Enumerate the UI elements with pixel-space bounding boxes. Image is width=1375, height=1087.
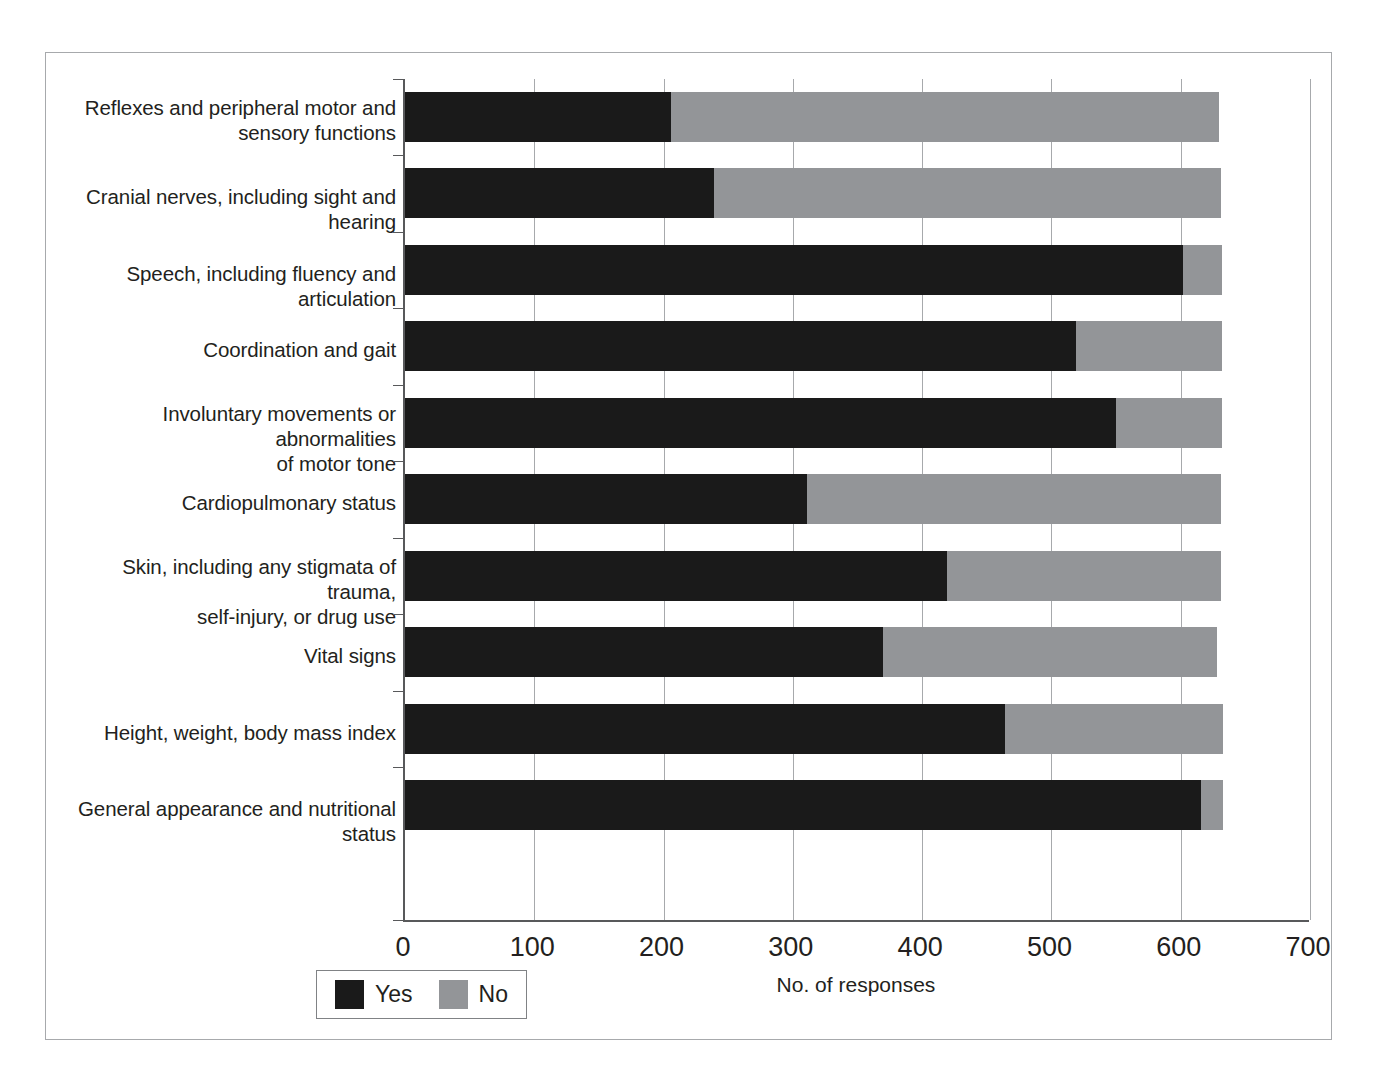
category-label-line: self-injury, or drug use xyxy=(197,605,396,628)
category-label: Height, weight, body mass index xyxy=(51,720,396,745)
category-label-line: Cardiopulmonary status xyxy=(182,491,396,514)
category-label-line: Cranial nerves, including sight and hear… xyxy=(86,185,396,233)
category-label-line: of motor tone xyxy=(277,452,397,475)
category-label: General appearance and nutritional statu… xyxy=(51,796,396,846)
category-label: Cranial nerves, including sight and hear… xyxy=(51,184,396,234)
category-tick xyxy=(393,155,405,156)
legend-label-no: No xyxy=(479,983,508,1006)
legend-label-yes: Yes xyxy=(375,983,413,1006)
stacked-bar[interactable] xyxy=(405,245,1222,295)
stacked-bar[interactable] xyxy=(405,92,1219,142)
stacked-bar[interactable] xyxy=(405,704,1223,754)
no-swatch-icon xyxy=(439,980,468,1009)
category-label-line: Speech, including fluency and articulati… xyxy=(127,262,397,310)
x-tick-label: 100 xyxy=(510,931,555,963)
x-tick-label: 0 xyxy=(395,931,410,963)
category-label-line: Height, weight, body mass index xyxy=(104,721,396,744)
bar-segment-no[interactable] xyxy=(883,627,1217,677)
bar-row xyxy=(405,232,1310,308)
stacked-bar[interactable] xyxy=(405,474,1221,524)
x-tick-label: 500 xyxy=(1027,931,1072,963)
bar-segment-no[interactable] xyxy=(1183,245,1222,295)
category-tick xyxy=(393,385,405,386)
gridline xyxy=(1310,79,1311,920)
bar-segment-yes[interactable] xyxy=(405,245,1183,295)
bar-segment-yes[interactable] xyxy=(405,398,1116,448)
bar-row xyxy=(405,614,1310,690)
category-label-line: Coordination and gait xyxy=(203,338,396,361)
plot-area xyxy=(403,79,1311,920)
category-label-line: General appearance and nutritional statu… xyxy=(78,797,396,845)
bar-segment-no[interactable] xyxy=(714,168,1221,218)
category-axis-labels: Reflexes and peripheral motor and sensor… xyxy=(46,79,396,920)
bar-row xyxy=(405,385,1310,461)
x-axis-title: No. of responses xyxy=(403,973,1309,997)
bar-row xyxy=(405,767,1310,843)
category-label: Involuntary movements or abnormalities o… xyxy=(51,401,396,476)
bar-segment-yes[interactable] xyxy=(405,168,714,218)
stacked-bar[interactable] xyxy=(405,627,1217,677)
x-tick-label: 300 xyxy=(768,931,813,963)
category-tick xyxy=(393,232,405,233)
chart-figure: Reflexes and peripheral motor and sensor… xyxy=(45,52,1332,1040)
category-label-line: Reflexes and peripheral motor and xyxy=(85,96,396,119)
bar-segment-yes[interactable] xyxy=(405,551,947,601)
stacked-bar[interactable] xyxy=(405,551,1221,601)
x-tick-label: 200 xyxy=(639,931,684,963)
category-label: Vital signs xyxy=(51,643,396,668)
category-tick xyxy=(393,691,405,692)
bar-segment-no[interactable] xyxy=(947,551,1221,601)
category-tick xyxy=(393,461,405,462)
x-tick-label: 700 xyxy=(1285,931,1330,963)
bar-segment-yes[interactable] xyxy=(405,321,1076,371)
category-label: Reflexes and peripheral motor and sensor… xyxy=(51,95,396,145)
category-tick xyxy=(393,614,405,615)
bar-segment-no[interactable] xyxy=(1201,780,1223,830)
bar-segment-no[interactable] xyxy=(1076,321,1222,371)
x-tick-label: 400 xyxy=(898,931,943,963)
bar-segment-no[interactable] xyxy=(1116,398,1222,448)
bar-segment-yes[interactable] xyxy=(405,474,807,524)
category-label: Coordination and gait xyxy=(51,337,396,362)
category-label: Cardiopulmonary status xyxy=(51,490,396,515)
stacked-bar[interactable] xyxy=(405,321,1222,371)
bar-row xyxy=(405,155,1310,231)
bar-segment-yes[interactable] xyxy=(405,92,671,142)
legend-entry-yes: Yes xyxy=(335,980,413,1009)
bar-row xyxy=(405,461,1310,537)
category-tick xyxy=(393,79,405,80)
category-label: Skin, including any stigmata of trauma, … xyxy=(51,554,396,629)
yes-swatch-icon xyxy=(335,980,364,1009)
bar-segment-yes[interactable] xyxy=(405,627,883,677)
legend-entry-no: No xyxy=(439,980,508,1009)
bar-segment-no[interactable] xyxy=(807,474,1221,524)
bar-segment-yes[interactable] xyxy=(405,780,1201,830)
category-tick xyxy=(393,767,405,768)
bar-row xyxy=(405,79,1310,155)
category-tick xyxy=(393,308,405,309)
category-tick xyxy=(393,538,405,539)
stacked-bar[interactable] xyxy=(405,780,1223,830)
bar-segment-yes[interactable] xyxy=(405,704,1005,754)
stacked-bar[interactable] xyxy=(405,168,1221,218)
x-axis-line xyxy=(403,920,1309,922)
bar-segment-no[interactable] xyxy=(1005,704,1223,754)
chart-legend: Yes No xyxy=(316,970,527,1019)
category-label: Speech, including fluency and articulati… xyxy=(51,261,396,311)
category-label-line: Vital signs xyxy=(304,644,396,667)
bar-row xyxy=(405,538,1310,614)
category-label-line: Skin, including any stigmata of trauma, xyxy=(122,555,396,603)
stacked-bar[interactable] xyxy=(405,398,1222,448)
x-axis-tick-labels: 0100200300400500600700 xyxy=(403,931,1309,965)
bar-row xyxy=(405,308,1310,384)
category-label-line: sensory functions xyxy=(238,121,396,144)
category-label-line: Involuntary movements or abnormalities xyxy=(163,402,396,450)
bar-segment-no[interactable] xyxy=(671,92,1219,142)
bar-row xyxy=(405,691,1310,767)
x-tick-label: 600 xyxy=(1156,931,1201,963)
